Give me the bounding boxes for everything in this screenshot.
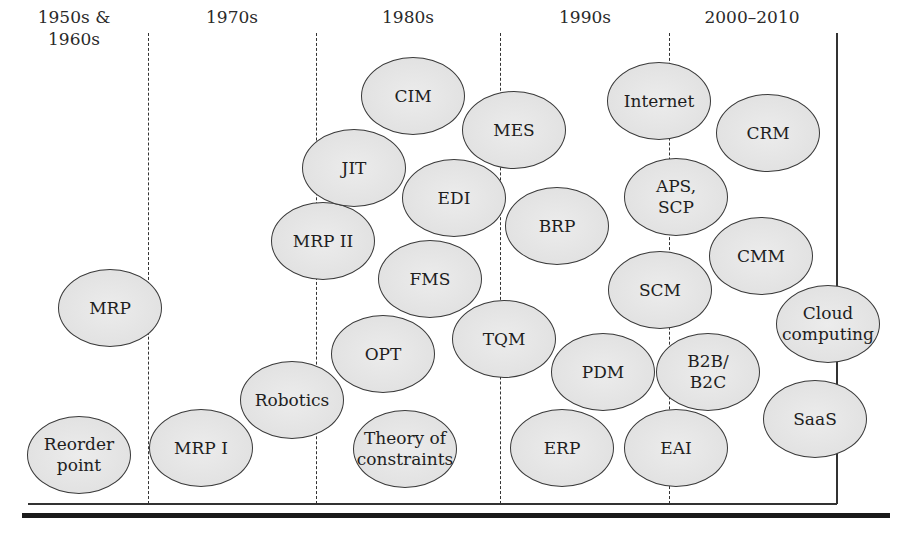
bubble-label: MES — [493, 120, 534, 141]
bubble-cim: CIM — [361, 57, 465, 135]
bubble-label: SCM — [639, 280, 681, 301]
bubble-label: MRP I — [174, 438, 228, 459]
bubble-label: CRM — [746, 123, 789, 144]
bubble-label: OPT — [365, 344, 402, 365]
bubble-edi: EDI — [402, 159, 506, 237]
bottom-rule — [22, 513, 890, 518]
bubble-reorder-point: Reorder point — [27, 416, 131, 494]
bubble-label: BRP — [539, 216, 576, 237]
bubble-label: MRP II — [293, 231, 353, 252]
baseline-axis — [28, 503, 837, 505]
bubble-opt: OPT — [331, 315, 435, 393]
bubble-label: Cloud computing — [782, 303, 874, 345]
era-label: 1950s & 1960s — [9, 6, 139, 50]
bubble-saas: SaaS — [763, 380, 867, 458]
bubble-label: EAI — [660, 438, 691, 459]
bubble-scm: SCM — [608, 251, 712, 329]
bubble-tqm: TQM — [452, 300, 556, 378]
bubble-jit: JIT — [302, 129, 406, 207]
bubble-mrp-i: MRP I — [149, 409, 253, 487]
bubble-internet: Internet — [607, 62, 711, 140]
bubble-label: SaaS — [793, 409, 837, 430]
bubble-label: Theory of constraints — [357, 428, 453, 470]
bubble-brp: BRP — [505, 187, 609, 265]
era-label: 2000–2010 — [682, 6, 822, 28]
bubble-erp: ERP — [510, 409, 614, 487]
bubble-label: TQM — [483, 329, 526, 350]
era-label: 1980s — [348, 6, 468, 28]
bubble-label: JIT — [342, 158, 367, 179]
bubble-label: EDI — [438, 188, 471, 209]
bubble-label: B2B/ B2C — [687, 351, 729, 393]
bubble-mes: MES — [462, 91, 566, 169]
bubble-label: MRP — [89, 298, 131, 319]
bubble-aps-scp: APS, SCP — [624, 158, 728, 236]
bubble-theory-of-constraints: Theory of constraints — [353, 410, 457, 488]
bubble-cloud-computing: Cloud computing — [776, 285, 880, 363]
bubble-label: CMM — [737, 246, 785, 267]
bubble-label: PDM — [582, 362, 624, 383]
bubble-label: Internet — [624, 91, 695, 112]
bubble-label: ERP — [544, 438, 581, 459]
era-label: 1990s — [525, 6, 645, 28]
bubble-label: APS, SCP — [656, 176, 696, 218]
bubble-label: FMS — [410, 269, 451, 290]
bubble-mrp-ii: MRP II — [271, 202, 375, 280]
bubble-pdm: PDM — [551, 333, 655, 411]
bubble-b2b-b2c: B2B/ B2C — [656, 333, 760, 411]
bubble-robotics: Robotics — [240, 361, 344, 439]
bubble-label: Reorder point — [44, 434, 114, 476]
bubble-cmm: CMM — [709, 217, 813, 295]
era-divider-line — [148, 33, 149, 504]
bubble-crm: CRM — [716, 94, 820, 172]
bubble-fms: FMS — [378, 240, 482, 318]
bubble-eai: EAI — [624, 409, 728, 487]
bubble-mrp: MRP — [58, 269, 162, 347]
bubble-label: Robotics — [255, 390, 330, 411]
bubble-label: CIM — [394, 86, 431, 107]
era-label: 1970s — [172, 6, 292, 28]
